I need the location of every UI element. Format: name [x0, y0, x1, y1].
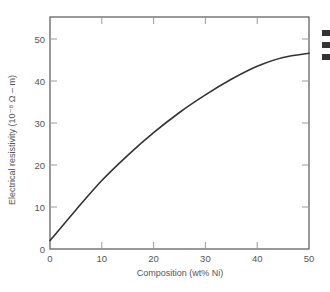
- x-axis-title: Composition (wt% Ni): [137, 268, 224, 278]
- plot-frame: [50, 17, 309, 249]
- y-axis-title: Electrical resistivity (10⁻⁸ Ω – m): [7, 75, 17, 205]
- cropped-caption-fragment: [322, 30, 330, 36]
- x-tick-label: 40: [252, 253, 263, 264]
- y-tick-label: 50: [34, 34, 45, 45]
- x-tick-label: 10: [97, 253, 108, 264]
- y-axis-tick-labels: 01020304050: [34, 34, 45, 255]
- y-tick-label: 40: [34, 76, 45, 87]
- y-tick-label: 20: [34, 160, 45, 171]
- x-tick-label: 50: [304, 253, 315, 264]
- x-tick-label: 20: [148, 253, 159, 264]
- x-tick-label: 30: [200, 253, 211, 264]
- cropped-caption-fragment: [322, 54, 330, 60]
- axis-ticks: [50, 17, 309, 249]
- resistivity-chart: 01020304050 01020304050 Composition (wt%…: [0, 0, 330, 292]
- x-axis-tick-labels: 01020304050: [47, 253, 314, 264]
- y-tick-label: 0: [40, 244, 45, 255]
- resistivity-curve: [50, 53, 309, 240]
- y-tick-label: 10: [34, 202, 45, 213]
- x-tick-label: 0: [47, 253, 52, 264]
- y-tick-label: 30: [34, 118, 45, 129]
- cropped-caption-fragment: [322, 42, 330, 48]
